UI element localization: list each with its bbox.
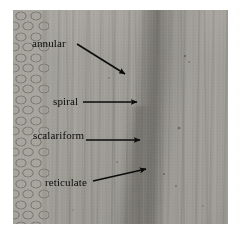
- micrograph-image: [13, 10, 228, 224]
- vignette: [13, 10, 228, 224]
- figure-root: annular spiral scalariform reticulate: [0, 0, 241, 236]
